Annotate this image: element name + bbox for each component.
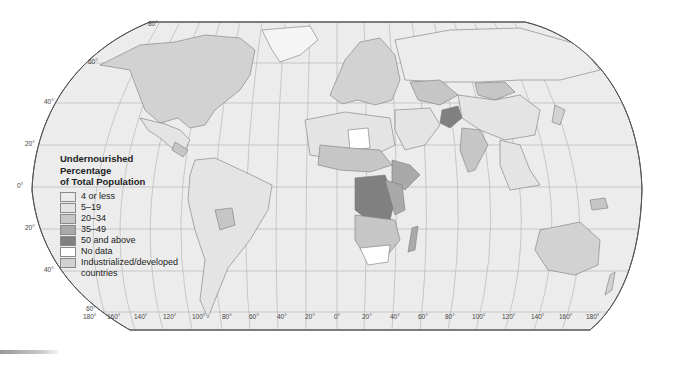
lat-label: 20° [25,140,35,147]
lon-label: 100° [192,313,205,320]
legend-title-line: of Total Population [60,176,240,188]
lon-label: 180° [586,313,599,320]
legend-item: No data [60,246,240,257]
legend-title: Undernourished Percentage of Total Popul… [60,153,240,188]
legend-item: 35–49 [60,224,240,235]
lon-label: 20° [305,313,315,320]
lon-label: 0° [334,313,340,320]
lon-label: 60° [418,313,428,320]
lat-label: 60° [88,58,98,65]
lon-label: 100° [472,313,485,320]
legend-item: Industrialized/developed countries [60,257,240,279]
lon-label: 120° [502,313,515,320]
lat-label: 80° [148,20,158,27]
map-legend: Undernourished Percentage of Total Popul… [60,153,240,279]
legend-label: 20–34 [81,213,106,224]
region-russia [395,28,600,82]
lon-label: 140° [531,313,544,320]
decorative-bar [0,350,58,354]
legend-swatch [60,214,76,224]
legend-item: 50 and above [60,235,240,246]
lat-label: 0° [17,182,23,189]
legend-label: 50 and above [81,235,136,246]
legend-item: 20–34 [60,213,240,224]
lon-label: 120° [163,313,176,320]
legend-title-line: Percentage [60,165,240,177]
lon-label: 20° [362,313,372,320]
legend-item: 5–19 [60,202,240,213]
legend-swatch [60,247,76,257]
lon-label: 140° [134,313,147,320]
lat-label: 40° [44,266,54,273]
legend-swatch [60,192,76,202]
legend-item: 4 or less [60,191,240,202]
lon-label: 80° [445,313,455,320]
legend-label: 5–19 [81,202,101,213]
region-libya-nodata [348,128,370,150]
lat-label: 20° [25,224,35,231]
lon-label: 160° [559,313,572,320]
lon-label: 180° [83,313,96,320]
legend-label: 35–49 [81,224,106,235]
lon-label: 80° [222,313,232,320]
legend-label: No data [81,246,113,257]
legend-label: Industrialized/developed countries [81,257,211,279]
lat-label: 60° [86,305,96,312]
legend-swatch [60,203,76,213]
legend-swatch [60,225,76,235]
lon-label: 40° [277,313,287,320]
legend-title-line: Undernourished [60,153,240,165]
legend-swatch [60,258,76,268]
lon-label: 60° [249,313,259,320]
lat-label: 40° [44,98,54,105]
lon-label: 160° [107,313,120,320]
legend-swatch [60,236,76,246]
lon-label: 40° [390,313,400,320]
legend-label: 4 or less [81,191,115,202]
